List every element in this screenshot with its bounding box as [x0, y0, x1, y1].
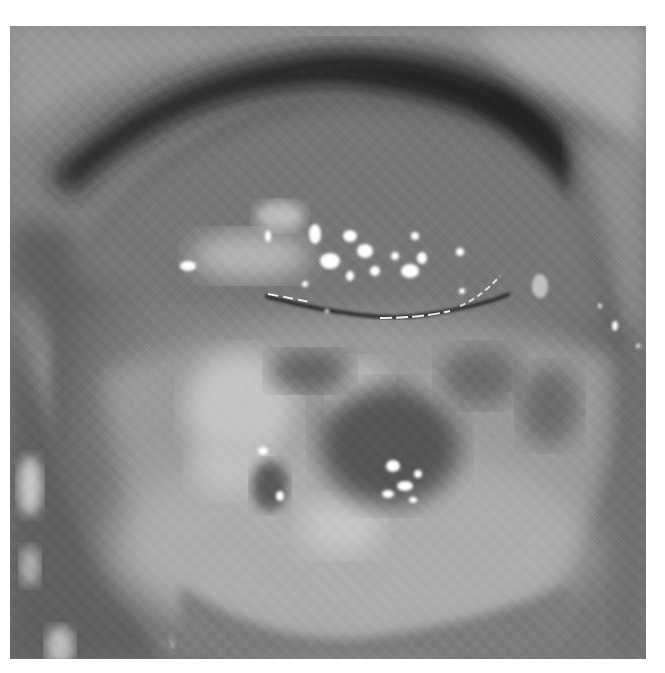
clinical-photo [10, 26, 646, 659]
photo-rendering [10, 26, 646, 659]
